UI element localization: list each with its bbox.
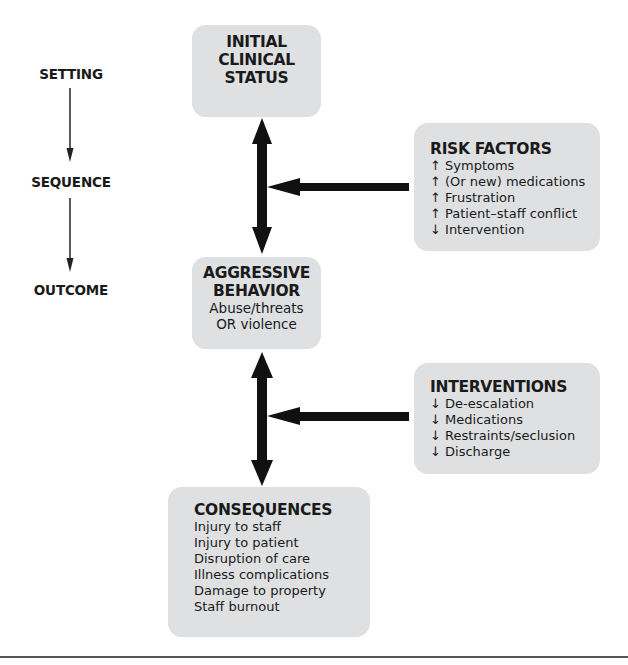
- risk-factor-item: ↓ Intervention: [430, 222, 600, 238]
- stage-outcome: OUTCOME: [6, 282, 136, 298]
- arrow-up-icon: ↑: [430, 190, 441, 205]
- consequence-item: Injury to patient: [194, 535, 370, 551]
- risk-factors-title: RISK FACTORS: [430, 140, 600, 158]
- arrow-up-icon: ↑: [430, 174, 441, 189]
- consequence-item: Injury to staff: [194, 519, 370, 535]
- consequence-item: Illness complications: [194, 567, 370, 583]
- consequence-item: Disruption of care: [194, 551, 370, 567]
- arrow-down-icon: ↓: [430, 428, 441, 443]
- consequences-box: CONSEQUENCES Injury to staff Injury to p…: [168, 487, 370, 637]
- aggressive-behavior-box: AGGRESSIVE BEHAVIOR Abuse/threats OR vio…: [192, 257, 321, 349]
- double-arrow-initial-aggressive: [252, 118, 272, 254]
- arrow-interventions: [267, 407, 409, 425]
- interventions-title: INTERVENTIONS: [430, 378, 600, 396]
- intervention-item: ↓ Discharge: [430, 444, 600, 460]
- risk-factor-item: ↑ Symptoms: [430, 158, 600, 174]
- intervention-item: ↓ Restraints/seclusion: [430, 428, 600, 444]
- consequence-item: Damage to property: [194, 583, 370, 599]
- aggressive-item-2: OR violence: [192, 316, 321, 332]
- arrow-up-icon: ↑: [430, 206, 441, 221]
- arrow-up-icon: ↑: [430, 158, 441, 173]
- double-arrow-aggressive-consequences: [251, 352, 273, 486]
- initial-clinical-status-box: INITIAL CLINICAL STATUS: [192, 25, 321, 117]
- timeline-arrow-1: [67, 88, 74, 162]
- consequences-title: CONSEQUENCES: [194, 501, 370, 519]
- risk-factor-item: ↑ Patient–staff conflict: [430, 206, 600, 222]
- risk-factor-item: ↑ Frustration: [430, 190, 600, 206]
- aggressive-title-line-1: AGGRESSIVE: [192, 264, 321, 282]
- bottom-rule-divider: [0, 656, 628, 658]
- risk-factors-box: RISK FACTORS ↑ Symptoms ↑ (Or new) medic…: [414, 123, 600, 251]
- aggressive-item-1: Abuse/threats: [192, 300, 321, 316]
- initial-title-line-1: INITIAL: [192, 33, 321, 51]
- stage-sequence: SEQUENCE: [6, 174, 136, 190]
- initial-title-line-3: STATUS: [192, 69, 321, 87]
- arrow-risk-factors: [267, 178, 409, 196]
- arrow-down-icon: ↓: [430, 396, 441, 411]
- intervention-item: ↓ Medications: [430, 412, 600, 428]
- interventions-box: INTERVENTIONS ↓ De-escalation ↓ Medicati…: [414, 363, 600, 474]
- arrow-down-icon: ↓: [430, 412, 441, 427]
- intervention-item: ↓ De-escalation: [430, 396, 600, 412]
- consequence-item: Staff burnout: [194, 599, 370, 615]
- risk-factor-item: ↑ (Or new) medications: [430, 174, 600, 190]
- aggressive-title-line-2: BEHAVIOR: [192, 282, 321, 300]
- stage-setting: SETTING: [6, 66, 136, 82]
- arrow-down-icon: ↓: [430, 444, 441, 459]
- arrow-down-icon: ↓: [430, 222, 441, 237]
- timeline-arrow-2: [67, 198, 74, 272]
- initial-title-line-2: CLINICAL: [192, 51, 321, 69]
